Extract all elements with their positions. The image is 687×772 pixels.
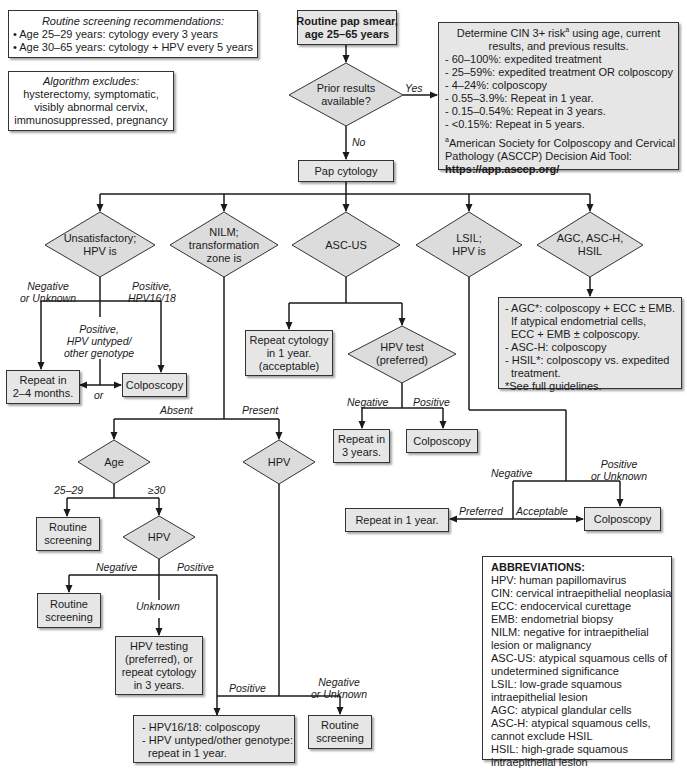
node-text: screening <box>316 732 364 745</box>
edge-label-age-ge30: ≥30 <box>148 484 165 496</box>
node-text: (acceptable) <box>259 360 320 373</box>
edge-label-lsil-positive: Positive or Unknown <box>591 458 647 482</box>
edge-label-unsat-positive-1618: Positive, HPV16/18 <box>128 280 176 304</box>
abbreviation-line: lesion or malignancy <box>491 639 591 652</box>
edge-label-text: or Unknown <box>20 292 76 304</box>
abbreviation-line: NILM: negative for intraepithelial <box>491 626 649 639</box>
node-text: LSIL; <box>452 232 486 245</box>
edge-label-ascus-positive: Positive <box>413 396 450 408</box>
edge-label-absent: Absent <box>160 404 193 416</box>
node-text: - AGC*: colposcopy + ECC ± EMB. <box>505 302 675 315</box>
edge-label-lsil-negative: Negative <box>491 467 532 479</box>
node-text: HPV test <box>376 341 428 354</box>
node-text: repeat cytology <box>122 666 197 679</box>
node-text: Pap cytology <box>315 165 378 178</box>
edge-label-unsat-positive-other: Positive, HPV untyped/ other genotype <box>64 323 134 359</box>
node-text: screening <box>45 611 93 624</box>
edge-label-no: No <box>352 136 365 148</box>
node-text: screening <box>44 534 92 547</box>
node-text: transformation <box>189 239 259 252</box>
node-text: (preferred) <box>376 354 428 367</box>
edge-label-hpv30-unknown: Unknown <box>136 600 180 612</box>
abbreviation-line: ECC: endocervical curettage <box>491 600 631 613</box>
node-text: 2–4 months. <box>13 387 74 400</box>
node-text: age 25–65 years <box>305 28 389 41</box>
abbreviation-line: undetermined significance <box>491 665 619 678</box>
abbreviation-line: AGC: atypical glandular cells <box>491 704 632 717</box>
edge-label-acceptable: Acceptable <box>516 505 568 517</box>
algorithm-excludes-box: Algorithm excludes: hysterectomy, sympto… <box>8 71 174 131</box>
ascus-decision: ASC-US <box>292 237 400 253</box>
abbreviation-line: intraepithelial lesion <box>491 691 588 704</box>
node-text: (preferred), or <box>125 653 193 666</box>
edge-label-hpv30-negative: Negative <box>96 561 137 573</box>
screening-recommendations-box: Routine screening recommendations: • Age… <box>8 10 258 58</box>
edge-label-text: Negative <box>311 676 367 688</box>
asccp-link[interactable]: https://app.asccp.org/ <box>445 163 672 176</box>
colposcopy-unsat-node: Colposcopy <box>122 373 187 397</box>
edge-label-text: HPV16/18 <box>128 292 176 304</box>
node-text: repeat in 1 year. <box>142 747 227 760</box>
edge-label-preferred: Preferred <box>459 505 503 517</box>
abbreviation-line: LSIL: low-grade squamous <box>491 678 622 691</box>
node-text: in 1 year. <box>267 347 312 360</box>
edge-label-yes: Yes <box>405 82 423 94</box>
routine-screening-node-3: Routine screening <box>308 715 372 749</box>
hpv-genotype-box: - HPV16/18: colposcopy - HPV untyped/oth… <box>133 715 295 763</box>
edge-label-age-25-29: 25–29 <box>54 484 83 496</box>
abbreviations-box: ABBREVIATIONS: HPV: human papillomavirus… <box>482 556 672 760</box>
edge-label-unsat-negative: Negative or Unknown <box>20 280 76 304</box>
routine-screening-node-2: Routine screening <box>37 593 101 628</box>
risk-item: - 0.55–3.9%: Repeat in 1 year. <box>445 92 672 105</box>
excludes-title: Algorithm excludes: <box>43 75 139 88</box>
edge-label-present-positive: Positive <box>229 682 266 694</box>
edge-label-text: Positive, <box>64 323 134 335</box>
screening-title: Routine screening recommendations: <box>42 15 224 28</box>
node-text: HPV <box>268 456 291 469</box>
node-text: - ASC-H: colposcopy <box>505 341 606 354</box>
footnote-text: American Society for Colposcopy and Cerv… <box>449 137 675 149</box>
node-text: *See full guidelines. <box>505 380 602 393</box>
abbreviation-line: HSIL: high-grade squamous <box>491 743 628 756</box>
node-text: Colposcopy <box>126 379 183 392</box>
nilm-decision: NILM;transformationzone is <box>170 225 278 265</box>
age-decision: Age <box>78 454 150 470</box>
excludes-line: immunosuppressed, pregnancy <box>14 114 167 127</box>
risk-item: - 0.15–0.54%: Repeat in 3 years. <box>445 105 672 118</box>
abbreviation-line: ASC-H: atypical squamous cells, <box>491 717 651 730</box>
node-text: HPV testing <box>130 640 188 653</box>
edge-label-present: Present <box>242 404 278 416</box>
abbreviation-line: intraepithelial lesion <box>491 756 588 769</box>
excludes-line: hysterectomy, symptomatic, <box>23 88 159 101</box>
unsatisfactory-decision: Unsatisfactory;HPV is <box>45 230 155 260</box>
node-text: Routine <box>50 598 88 611</box>
node-text: Colposcopy <box>413 435 470 448</box>
repeat-1-year-node: Repeat in 1 year. <box>345 508 449 532</box>
node-text: zone is <box>189 252 259 265</box>
node-text: Colposcopy <box>594 513 651 526</box>
abbreviation-line: ASC-US: atypical squamous cells of <box>491 652 667 665</box>
node-text: Repeat in <box>338 433 385 446</box>
node-text: HSIL <box>557 245 624 258</box>
node-text: available? <box>317 95 376 108</box>
node-text: Age <box>104 456 124 469</box>
risk-intro: using age, current <box>569 27 660 39</box>
node-text: Repeat in 1 year. <box>355 514 438 527</box>
agc-management-box: - AGC*: colposcopy + ECC ± EMB. If atypi… <box>498 297 682 389</box>
edge-label-text: Negative <box>20 280 76 292</box>
edge-label-or: or <box>94 389 103 401</box>
edge-label-text: Positive, <box>128 280 176 292</box>
edge-label-text: Positive <box>591 458 647 470</box>
abbreviation-line: HPV: human papillomavirus <box>491 574 626 587</box>
edge-label-text: HPV untyped/ <box>64 335 134 347</box>
node-text: Routine pap smear, <box>296 15 397 28</box>
risk-item: - <0.15%: Repeat in 5 years. <box>445 118 672 131</box>
node-text: Repeat in <box>19 374 66 387</box>
abbreviations-title: ABBREVIATIONS: <box>491 561 585 574</box>
edge-label-text: other genotype <box>64 347 134 359</box>
risk-intro: results, and previous results. <box>488 40 628 53</box>
edge-label-hpv30-positive: Positive <box>177 561 214 573</box>
lsil-decision: LSIL;HPV is <box>416 230 522 260</box>
edge-label-text: or Unknown <box>311 688 367 700</box>
abbreviation-line: cannot exclude HSIL <box>491 730 593 743</box>
